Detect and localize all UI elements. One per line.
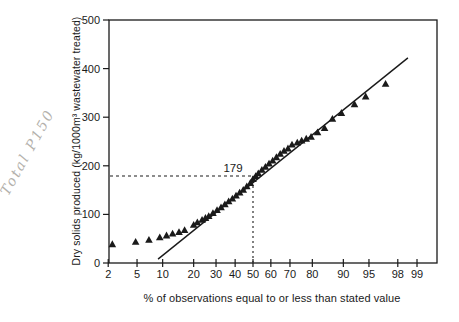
x-tick-label: 95 (363, 268, 375, 280)
x-tick-label: 30 (210, 268, 222, 280)
x-tick-label: 50 (247, 268, 259, 280)
x-axis-title: % of observations equal to or less than … (0, 292, 459, 304)
x-tick-label: 10 (157, 268, 169, 280)
fit-line (158, 58, 408, 259)
y-tick-label: 400 (82, 63, 100, 75)
x-tick-label: 98 (392, 268, 404, 280)
x-tick-label: 70 (284, 268, 296, 280)
data-point-triangle (382, 80, 390, 87)
y-tick-label: 200 (82, 160, 100, 172)
chart-canvas: 2510203040506070809095989901002003004005… (0, 0, 459, 322)
data-point-triangle (181, 226, 189, 233)
y-tick-label: 300 (82, 111, 100, 123)
reference-value-label: 179 (214, 162, 252, 174)
x-tick-label: 20 (188, 268, 200, 280)
data-point-triangle (163, 232, 171, 239)
y-tick-label: 500 (82, 14, 100, 26)
y-tick-label: 0 (94, 257, 100, 269)
x-tick-label: 60 (265, 268, 277, 280)
data-point-triangle (109, 240, 117, 247)
x-tick-label: 2 (105, 268, 111, 280)
x-tick-label: 90 (337, 268, 349, 280)
data-point-triangle (169, 230, 177, 237)
y-axis-title: Dry solids produced (kg/1000m³ wastewate… (70, 17, 82, 266)
y-tick-label: 100 (82, 208, 100, 220)
data-point-triangle (156, 234, 164, 241)
data-point-triangle (145, 236, 153, 243)
plot-border (109, 20, 437, 263)
x-tick-label: 5 (134, 268, 140, 280)
x-tick-label: 40 (229, 268, 241, 280)
x-tick-label: 99 (411, 268, 423, 280)
probability-plot-figure: Total P150 25102030405060708090959899010… (0, 0, 459, 322)
x-tick-label: 80 (306, 268, 318, 280)
data-point-triangle (132, 238, 140, 245)
